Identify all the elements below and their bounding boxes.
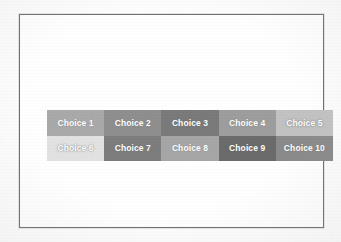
- choice-cell-7[interactable]: Choice 7: [104, 136, 161, 162]
- choice-cell-label: Choice 5: [286, 119, 322, 128]
- choice-cell-label: Choice 1: [57, 119, 93, 128]
- choice-cell-3[interactable]: Choice 3: [161, 110, 218, 136]
- choice-cell-label: Choice 3: [172, 119, 208, 128]
- content-frame: Choice 1Choice 2Choice 3Choice 4Choice 5…: [19, 14, 324, 228]
- choice-cell-10[interactable]: Choice 10: [276, 136, 333, 162]
- choice-cell-label: Choice 10: [284, 144, 325, 153]
- choice-cell-9[interactable]: Choice 9: [219, 136, 276, 162]
- choice-cell-4[interactable]: Choice 4: [219, 110, 276, 136]
- choice-cell-2[interactable]: Choice 2: [104, 110, 161, 136]
- choice-cell-label: Choice 8: [172, 144, 208, 153]
- choice-cell-label: Choice 6: [57, 144, 93, 153]
- choice-cell-label: Choice 7: [115, 144, 151, 153]
- choice-cell-1[interactable]: Choice 1: [47, 110, 104, 136]
- choice-grid: Choice 1Choice 2Choice 3Choice 4Choice 5…: [47, 110, 333, 161]
- choice-cell-5[interactable]: Choice 5: [276, 110, 333, 136]
- choice-cell-6[interactable]: Choice 6: [47, 136, 104, 162]
- choice-cell-label: Choice 9: [229, 144, 265, 153]
- scanned-page-surface: Choice 1Choice 2Choice 3Choice 4Choice 5…: [0, 0, 341, 242]
- choice-cell-8[interactable]: Choice 8: [161, 136, 218, 162]
- choice-cell-label: Choice 2: [115, 119, 151, 128]
- choice-cell-label: Choice 4: [229, 119, 265, 128]
